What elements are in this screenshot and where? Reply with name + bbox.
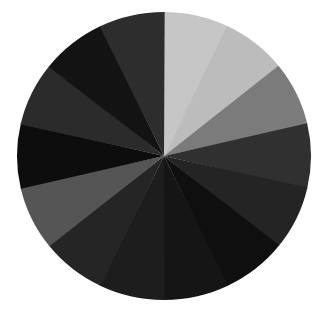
figure-root <box>0 0 327 312</box>
sector-group <box>17 12 311 300</box>
sector-disc-chart <box>0 0 327 312</box>
